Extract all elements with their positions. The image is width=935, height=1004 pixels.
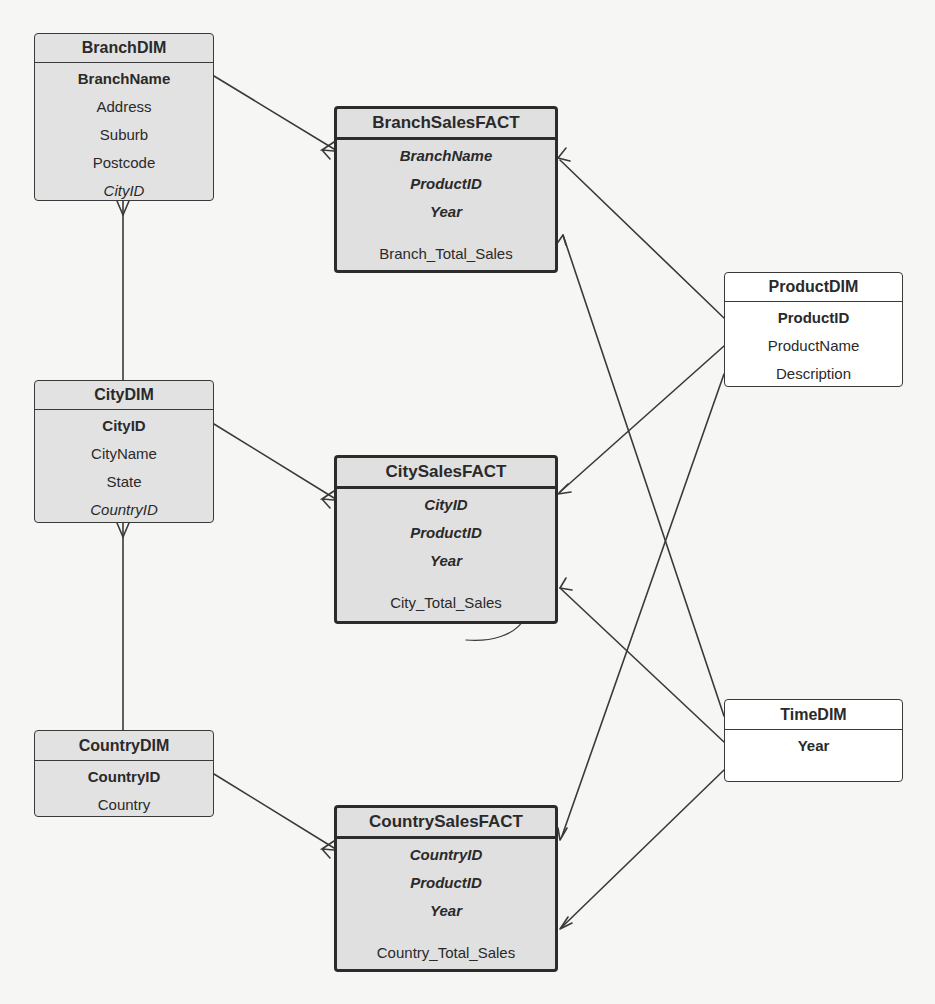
attribute-primary-key: CityID — [102, 412, 145, 440]
attribute: CityName — [91, 440, 157, 468]
attribute: Postcode — [93, 149, 156, 177]
diagram-canvas: BranchDIM BranchName Address Suburb Post… — [0, 0, 935, 1004]
attribute-composite-key: Year — [430, 547, 462, 575]
attribute-primary-key: BranchName — [78, 65, 171, 93]
entity-time-dim[interactable]: TimeDIM Year — [724, 699, 903, 782]
entity-title: TimeDIM — [725, 700, 902, 730]
attribute-primary-key: ProductID — [778, 304, 850, 332]
attribute: Address — [96, 93, 151, 121]
attribute-foreign-key: CityID — [104, 177, 145, 201]
attribute-measure: Branch_Total_Sales — [379, 240, 512, 268]
entity-title: CountrySalesFACT — [337, 808, 555, 839]
entity-title: CitySalesFACT — [337, 458, 555, 489]
attribute-composite-key: ProductID — [410, 170, 482, 198]
attribute: Suburb — [100, 121, 148, 149]
entity-branch-sales-fact[interactable]: BranchSalesFACT BranchName ProductID Yea… — [334, 106, 558, 273]
entity-title: ProductDIM — [725, 273, 902, 302]
entity-branch-dim[interactable]: BranchDIM BranchName Address Suburb Post… — [34, 33, 214, 201]
entity-city-dim[interactable]: CityDIM CityID CityName State CountryID — [34, 380, 214, 523]
entity-title: CountryDIM — [35, 731, 213, 761]
attribute-composite-key: CountryID — [410, 841, 483, 869]
attribute: Country — [98, 791, 151, 817]
entity-country-dim[interactable]: CountryDIM CountryID Country — [34, 730, 214, 817]
entity-title: CityDIM — [35, 381, 213, 410]
attribute: ProductName — [768, 332, 860, 360]
attribute-composite-key: Year — [430, 198, 462, 226]
attribute-primary-key: Year — [798, 732, 830, 760]
attribute-composite-key: ProductID — [410, 519, 482, 547]
attribute: State — [106, 468, 141, 496]
attribute: Description — [776, 360, 851, 387]
attribute-measure: Country_Total_Sales — [377, 939, 515, 967]
entity-title: BranchDIM — [35, 34, 213, 63]
attribute-composite-key: ProductID — [410, 869, 482, 897]
attribute-measure: City_Total_Sales — [390, 589, 502, 617]
attribute-foreign-key: CountryID — [90, 496, 158, 523]
attribute-composite-key: Year — [430, 897, 462, 925]
attribute-composite-key: CityID — [424, 491, 467, 519]
entity-country-sales-fact[interactable]: CountrySalesFACT CountryID ProductID Yea… — [334, 805, 558, 972]
entity-title: BranchSalesFACT — [337, 109, 555, 140]
attribute-primary-key: CountryID — [88, 763, 161, 791]
entity-product-dim[interactable]: ProductDIM ProductID ProductName Descrip… — [724, 272, 903, 387]
attribute-composite-key: BranchName — [400, 142, 493, 170]
entity-city-sales-fact[interactable]: CitySalesFACT CityID ProductID Year City… — [334, 455, 558, 624]
